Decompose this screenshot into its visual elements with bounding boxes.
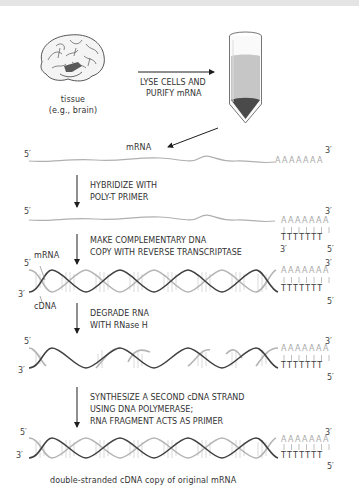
test-tube-icon bbox=[230, 32, 262, 123]
rna-dna-hybrid-helix bbox=[29, 266, 278, 302]
tissue-example-label: (e.g., brain) bbox=[36, 105, 110, 116]
row2-3prime: 3′ bbox=[325, 207, 332, 216]
brain-icon bbox=[41, 35, 104, 81]
mrna-strand-row2 bbox=[29, 215, 275, 221]
step-lyse-line2: PURIFY mRNA bbox=[146, 88, 201, 100]
step-reverse-transcribe-line2: COPY WITH REVERSE TRANSCRIPTASE bbox=[90, 247, 242, 259]
row4-left-5prime: 5′ bbox=[24, 337, 31, 346]
step-hybridize-line2: POLY-T PRIMER bbox=[90, 192, 148, 204]
row5-poly-a: AAAAAAA bbox=[281, 435, 330, 444]
tissue-label: tissue bbox=[42, 94, 104, 105]
double-stranded-cdna-helix bbox=[29, 438, 278, 458]
primer-5prime: 5′ bbox=[327, 245, 334, 254]
cdna-label: cDNA bbox=[34, 301, 56, 312]
primer-3prime: 3′ bbox=[280, 245, 287, 254]
mrna-strand-row1 bbox=[29, 156, 275, 162]
row4-left-3prime: 3′ bbox=[18, 366, 25, 375]
step-lyse-line1: LYSE CELLS AND bbox=[140, 77, 206, 89]
row3-right-5prime: 5′ bbox=[327, 297, 334, 306]
row3-left-3prime: 3′ bbox=[18, 290, 25, 299]
step-degrade-line1: DEGRADE RNA bbox=[90, 308, 149, 320]
step-second-strand-line3: RNA FRAGMENT ACTS AS PRIMER bbox=[90, 416, 223, 428]
base-pair-ticks-row5 bbox=[284, 444, 329, 450]
mrna-label: mRNA bbox=[126, 142, 151, 153]
step-hybridize-line1: HYBRIDIZE WITH bbox=[90, 180, 157, 192]
row4-poly-a: AAAAAAA bbox=[281, 344, 330, 353]
row5-left-3prime: 3′ bbox=[16, 451, 23, 460]
hybrid-mrna-label: mRNA bbox=[34, 250, 59, 261]
row1-poly-a: AAAAAAA bbox=[275, 156, 324, 165]
row3-poly-t: TTTTTTT bbox=[281, 284, 323, 293]
row5-right-5prime: 5′ bbox=[327, 462, 334, 471]
step-reverse-transcribe-line1: MAKE COMPLEMENTARY DNA bbox=[90, 235, 206, 247]
row5-left-5prime: 5′ bbox=[20, 428, 27, 437]
row2-poly-a: AAAAAAA bbox=[281, 216, 330, 225]
row2-5prime: 5′ bbox=[24, 207, 31, 216]
poly-t-primer: TTTTTTT bbox=[281, 233, 323, 242]
step-degrade-line2: WITH RNase H bbox=[90, 320, 148, 332]
caption: double-stranded cDNA copy of original mR… bbox=[50, 475, 236, 486]
row5-poly-t: TTTTTTT bbox=[281, 451, 323, 460]
base-pair-ticks-row3 bbox=[284, 277, 329, 283]
row4-right-5prime: 5′ bbox=[327, 373, 334, 382]
row1-3prime: 3′ bbox=[325, 146, 332, 155]
step-second-strand-line2: USING DNA POLYMERASE; bbox=[90, 404, 193, 416]
row3-left-5prime: 5′ bbox=[24, 259, 31, 268]
row1-5prime: 5′ bbox=[24, 150, 31, 159]
cdna-with-rna-fragments bbox=[29, 348, 278, 368]
row3-poly-a: AAAAAAA bbox=[281, 266, 330, 275]
step-second-strand-line1: SYNTHESIZE A SECOND cDNA STRAND bbox=[90, 392, 245, 404]
arrow-to-mrna bbox=[168, 128, 218, 147]
row4-poly-t: TTTTTTT bbox=[281, 361, 323, 370]
